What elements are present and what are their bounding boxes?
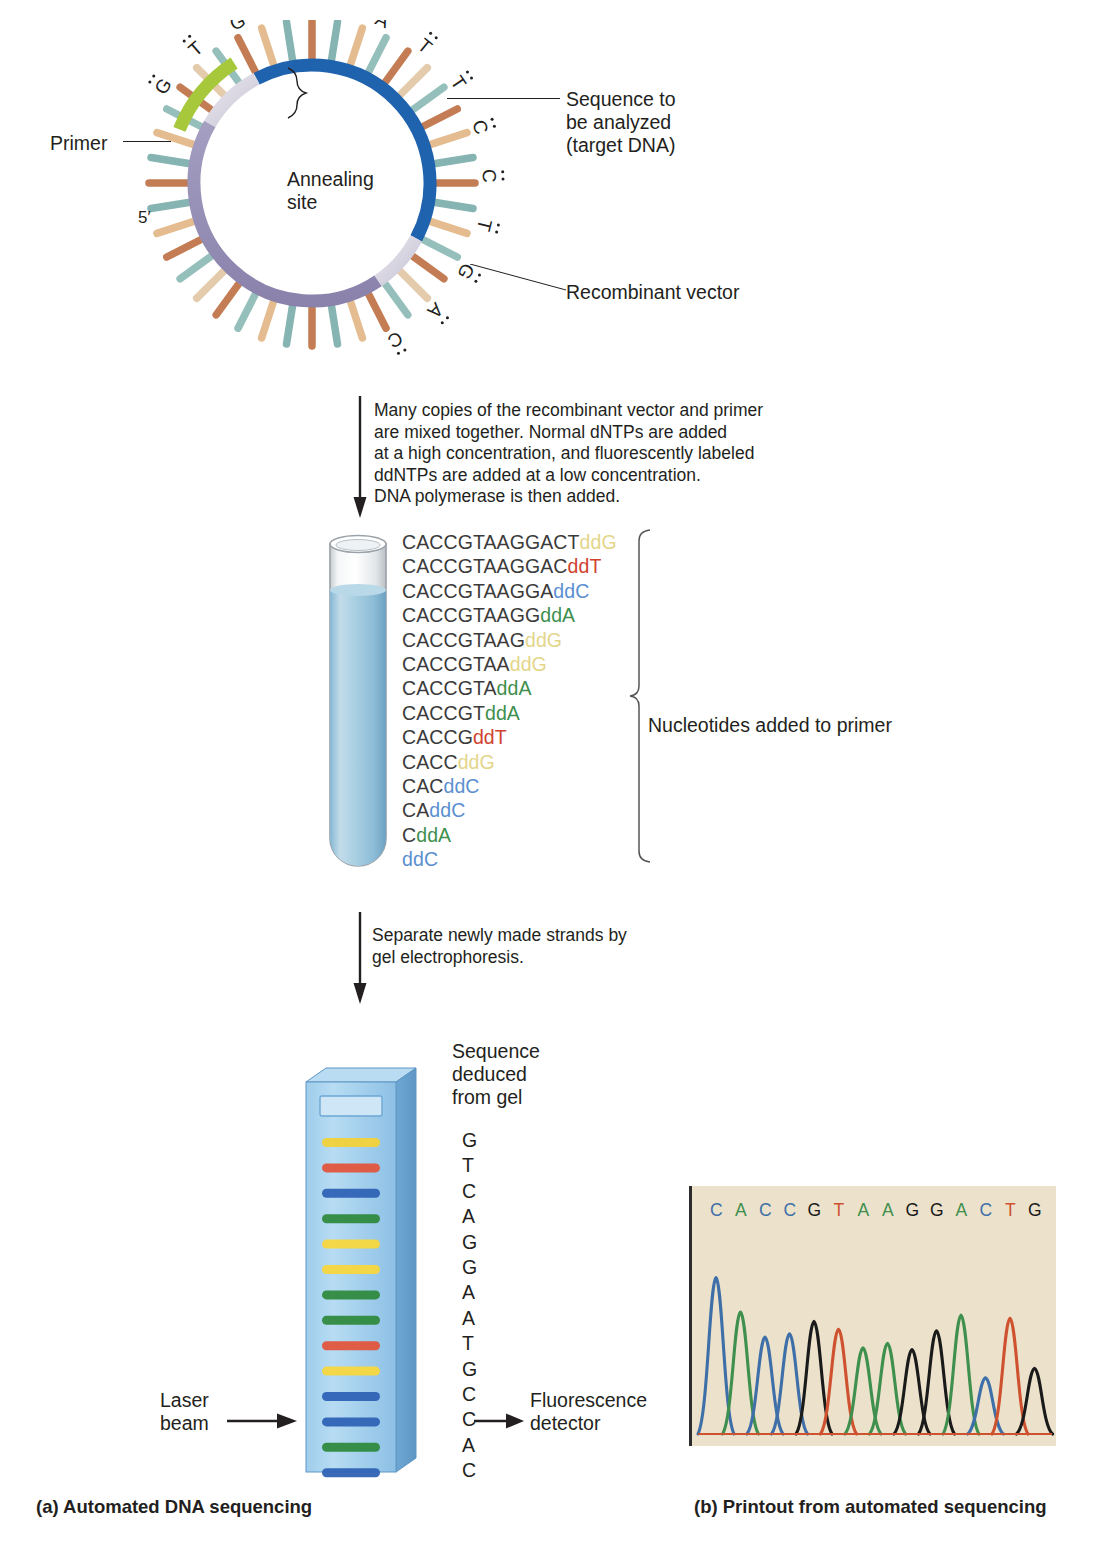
deduced-base: G [462,1128,477,1153]
svg-text:G: G [226,20,248,35]
terminating-ddntp: ddA [485,702,520,724]
terminating-ddntp: ddT [473,726,507,748]
deduced-base: A [462,1204,477,1229]
deduced-base: C [462,1179,477,1204]
deduced-base: A [462,1433,477,1458]
strand-base-sequence: CACCGTA [402,677,497,699]
panel-a-caption: (a) Automated DNA sequencing [36,1496,312,1518]
strand-row: CACCGTAddA [402,676,617,700]
svg-text:T: T [184,37,207,61]
printout-base: C [778,1200,803,1221]
svg-text:T: T [473,217,496,234]
recombinant-vector-panel: GTGGCATTCCTGAC Primer 5′ Sequence to be … [0,0,1106,390]
svg-text:G: G [150,74,176,98]
strand-sequence-list: CACCGTAAGGACTddGCACCGTAAGGACddTCACCGTAAG… [402,530,617,871]
step2-arrow [352,912,372,1008]
printout-base: G [1023,1200,1048,1221]
strand-row: CACCddG [402,750,617,774]
strand-base-sequence: CACCGTAA [402,653,510,675]
deduced-base: C [462,1458,477,1483]
sequencing-printout: CACCGTAAGGACTG [689,1186,1056,1446]
primer-leader-line [123,141,171,142]
printout-base: G [802,1200,827,1221]
strand-base-sequence: CACCGTAAGGACT [402,531,580,553]
strand-row: CACCGTAAGddG [402,628,617,652]
strand-base-sequence: CACCGTAAG [402,629,525,651]
terminating-ddntp: ddC [402,848,438,870]
terminating-ddntp: ddA [540,604,575,626]
strand-base-sequence: C [402,824,416,846]
printout-base: A [949,1200,974,1221]
deduced-sequence-letters: GTCAGGAATGCCAC [462,1128,477,1483]
printout-base: C [974,1200,999,1221]
sequence-deduced-title: Sequence deduced from gel [452,1040,540,1109]
terminating-ddntp: ddC [443,775,479,797]
step1-instruction: Many copies of the recombinant vector an… [374,400,763,508]
strand-base-sequence: CACCGTAAGGA [402,580,553,602]
strand-base-sequence: CACC [402,751,458,773]
deduced-base: T [462,1153,477,1178]
strand-row: CACCGTAAddG [402,652,617,676]
laser-beam-label: Laser beam [160,1389,209,1435]
recombinant-vector-label: Recombinant vector [566,281,739,304]
printout-base: T [827,1200,852,1221]
strand-base-sequence: CAC [402,775,443,797]
strand-row: CACddC [402,774,617,798]
terminating-ddntp: ddG [580,531,617,553]
printout-base: C [753,1200,778,1221]
deduced-base: G [462,1255,477,1280]
deduced-base: T [462,1331,477,1356]
svg-text:A: A [372,20,392,32]
fluorescence-detector-label: Fluorescence detector [530,1389,647,1435]
svg-text:C: C [479,169,501,184]
printout-base: A [729,1200,754,1221]
strand-row: CACCGTAAGGACTddG [402,530,617,554]
strand-row: CACCGTAAGGddA [402,603,617,627]
printout-base: T [998,1200,1023,1221]
step1-arrow [352,396,372,522]
svg-text:C: C [468,117,492,137]
printout-base: G [900,1200,925,1221]
svg-text:T: T [446,72,470,94]
strand-base-sequence: CACCGTAAGGAC [402,555,568,577]
laser-beam-arrow [227,1412,299,1430]
vector-leader-line [470,264,566,294]
strand-row: CACCGddT [402,725,617,749]
chromatogram-trace [692,1228,1059,1446]
reaction-tube-panel: CACCGTAAGGACTddGCACCGTAAGGACddTCACCGTAAG… [0,520,1106,900]
svg-text:T: T [414,34,437,58]
target-leader-line [447,98,560,99]
five-prime-label: 5′ [138,206,151,229]
printout-base: A [876,1200,901,1221]
deduced-base: A [462,1306,477,1331]
printout-base: G [925,1200,950,1221]
panel-b-caption: (b) Printout from automated sequencing [694,1496,1047,1518]
printout-base: C [704,1200,729,1221]
test-tube [322,528,394,873]
strand-base-sequence: CA [402,799,429,821]
deduced-base: G [462,1357,477,1382]
deduced-base: G [462,1230,477,1255]
nucleotides-added-label: Nucleotides added to primer [648,714,892,737]
svg-text:A: A [423,299,447,323]
detector-arrow [474,1412,526,1430]
printout-base: A [851,1200,876,1221]
strand-bracket [628,526,654,866]
strand-row: CddA [402,823,617,847]
strand-base-sequence: CACCGT [402,702,485,724]
strand-row: CACCGTAAGGACddT [402,554,617,578]
strand-row: CACCGTddA [402,701,617,725]
terminating-ddntp: ddT [568,555,602,577]
strand-row: ddC [402,847,617,871]
annealing-brace [288,68,306,118]
strand-base-sequence: CACCG [402,726,473,748]
terminating-ddntp: ddG [525,629,562,651]
terminating-ddntp: ddA [416,824,451,846]
terminating-ddntp: ddA [497,677,532,699]
strand-row: CACCGTAAGGAddC [402,579,617,603]
printout-base-calls: CACCGTAAGGACTG [704,1200,1047,1221]
terminating-ddntp: ddG [510,653,547,675]
terminating-ddntp: ddG [458,751,495,773]
terminating-ddntp: ddC [429,799,465,821]
target-dna-label: Sequence to be analyzed (target DNA) [566,88,676,157]
